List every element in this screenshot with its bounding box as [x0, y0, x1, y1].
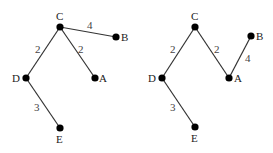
- node-C: [56, 23, 63, 30]
- node-label: D: [148, 72, 156, 84]
- edge-weight-label: 2: [214, 43, 220, 55]
- nodes-layer: CBDAECBDAE: [12, 10, 263, 145]
- node-A: [225, 74, 232, 81]
- node-B: [112, 33, 119, 40]
- edge-C-D: [162, 27, 195, 78]
- graph-diagram: 42232243 CBDAECBDAE: [0, 0, 273, 153]
- node-label: C: [191, 10, 198, 22]
- edge-weight-label: 2: [170, 43, 176, 55]
- edge-C-A: [195, 27, 229, 78]
- edge-weight-label: 4: [87, 19, 93, 31]
- node-label: E: [56, 133, 63, 145]
- node-D: [22, 74, 29, 81]
- edge-C-D: [26, 27, 60, 78]
- node-label: A: [234, 72, 242, 84]
- node-label: E: [191, 132, 198, 144]
- node-label: C: [56, 10, 63, 22]
- edge-weight-label: 3: [170, 101, 176, 113]
- node-C: [191, 23, 198, 30]
- edges-layer: 42232243: [26, 19, 251, 128]
- node-E: [191, 123, 198, 130]
- edge-weight-label: 3: [34, 101, 40, 113]
- node-B: [247, 32, 254, 39]
- node-E: [56, 124, 63, 131]
- node-label: B: [256, 30, 263, 42]
- edge-weight-label: 2: [35, 43, 41, 55]
- node-label: A: [99, 72, 107, 84]
- edge-weight-label: 4: [245, 52, 251, 64]
- edge-D-E: [26, 78, 60, 128]
- node-label: B: [121, 31, 128, 43]
- edge-D-E: [162, 78, 195, 127]
- node-label: D: [12, 72, 20, 84]
- node-A: [91, 74, 98, 81]
- edge-weight-label: 2: [78, 43, 84, 55]
- node-D: [158, 74, 165, 81]
